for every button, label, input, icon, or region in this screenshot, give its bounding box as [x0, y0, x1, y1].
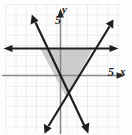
x-axis-label: x [120, 66, 126, 77]
y-axis-tick-5: 5 [55, 14, 61, 26]
graph-figure: y 5 x 5 [0, 0, 132, 135]
y-axis-label: y [62, 4, 67, 15]
x-axis-tick-5: 5 [108, 66, 114, 78]
